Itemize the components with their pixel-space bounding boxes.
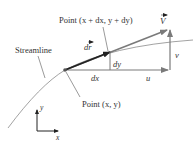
dr-vector xyxy=(65,52,110,70)
streamline-leader xyxy=(38,56,45,78)
point-xy-label: Point (x, y) xyxy=(82,99,121,109)
dx-label: dx xyxy=(91,73,99,83)
streamline-diagram: Point (x + dx, y + dy) V dr Streamline d… xyxy=(0,0,193,144)
axis-x-label: x xyxy=(55,133,60,142)
point-xy-leader xyxy=(66,72,80,97)
velocity-label: V xyxy=(160,16,167,26)
point-dxdy-leader xyxy=(103,27,108,51)
dr-label: dr xyxy=(84,42,92,52)
streamline-label: Streamline xyxy=(15,45,52,55)
v-label: v xyxy=(175,50,179,60)
axis-y-label: y xyxy=(39,103,44,112)
point-xy-marker xyxy=(63,68,67,72)
dy-label: dy xyxy=(113,59,121,69)
point-dxdy-label: Point (x + dx, y + dy) xyxy=(59,15,133,25)
u-label: u xyxy=(146,73,150,83)
